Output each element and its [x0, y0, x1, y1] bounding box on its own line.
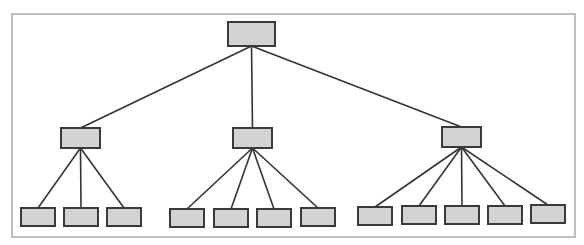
tree-edge — [462, 147, 549, 205]
root-node — [228, 22, 275, 46]
branch-node-b2 — [233, 128, 272, 148]
tree-edge — [375, 147, 462, 207]
leaf-node — [358, 207, 392, 225]
tree-edge — [81, 148, 82, 208]
org-tree-diagram — [0, 0, 584, 245]
tree-edge — [81, 148, 125, 208]
tree-nodes — [21, 22, 565, 227]
tree-edge — [187, 148, 253, 209]
leaf-node — [402, 206, 436, 224]
branch-node-b3 — [442, 127, 481, 147]
leaf-node — [64, 208, 98, 226]
tree-edge — [252, 46, 462, 127]
tree-edge — [419, 147, 462, 206]
leaf-node — [257, 209, 291, 227]
tree-edge — [462, 147, 506, 206]
leaf-node — [301, 208, 335, 226]
leaf-node — [531, 205, 565, 223]
leaf-node — [445, 206, 479, 224]
tree-edge — [462, 147, 463, 206]
diagram-frame — [12, 14, 575, 237]
tree-edge — [81, 46, 252, 128]
branch-node-b1 — [61, 128, 100, 148]
leaf-node — [170, 209, 204, 227]
tree-edge — [252, 46, 253, 128]
leaf-node — [107, 208, 141, 226]
leaf-node — [488, 206, 522, 224]
tree-edge — [38, 148, 81, 208]
leaf-node — [214, 209, 248, 227]
leaf-node — [21, 208, 55, 226]
